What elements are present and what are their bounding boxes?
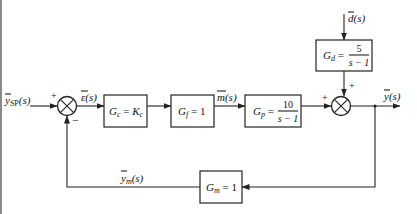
fb-minus-sign: − xyxy=(72,114,78,126)
measurement-block: Gm = 1 xyxy=(200,171,242,203)
process-plus-sign: + xyxy=(322,92,328,103)
controller-block: Gc = Kc xyxy=(104,95,147,127)
error-label: ε(s) xyxy=(81,91,97,104)
manipulated-label: m(s) xyxy=(217,91,237,104)
block-diagram: ySP(s) + − ε(s) Gc = Kc Gf = xyxy=(0,0,417,214)
svg-text:10: 10 xyxy=(283,99,293,110)
page-edge xyxy=(0,0,2,214)
process-block: Gp = 10 s − 1 xyxy=(245,95,301,127)
disturbance-label: d(s) xyxy=(348,12,365,25)
svg-text:5: 5 xyxy=(357,43,362,54)
svg-text:s − 1: s − 1 xyxy=(278,113,299,124)
summing-junction-error xyxy=(58,97,77,116)
final-element-block: Gf = 1 xyxy=(171,95,214,127)
svg-text:Gf = 1: Gf = 1 xyxy=(178,105,205,119)
summing-junction-output xyxy=(332,97,351,116)
svg-text:Gc = Kc: Gc = Kc xyxy=(109,105,144,119)
svg-text:Gm = 1: Gm = 1 xyxy=(206,181,237,195)
setpoint-label: ySP(s) xyxy=(4,94,31,108)
disturbance-block: Gd = 5 s − 1 xyxy=(316,40,372,71)
disturbance-plus-sign: + xyxy=(349,80,355,91)
measured-label: ym(s) xyxy=(120,172,144,186)
svg-text:s − 1: s − 1 xyxy=(349,57,370,68)
output-label: y(s) xyxy=(383,90,401,103)
sp-plus-sign: + xyxy=(51,90,57,101)
